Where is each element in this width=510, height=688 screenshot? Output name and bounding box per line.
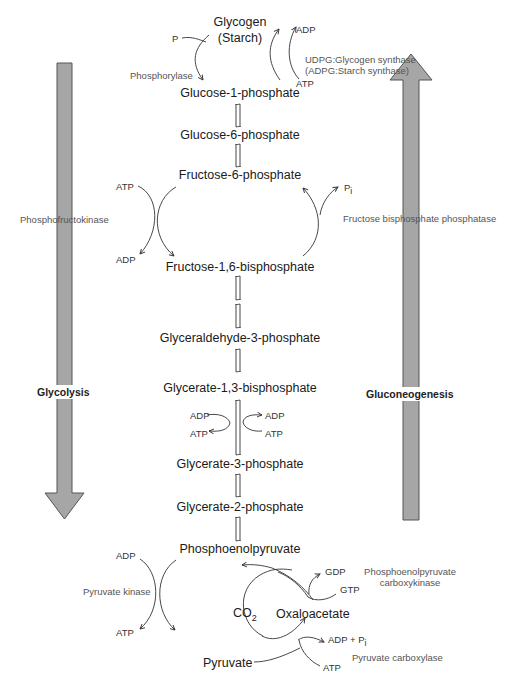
pathway-label-glycolysis: Glycolysis xyxy=(37,385,90,399)
cofactor-adp-pgk-right: ADP xyxy=(265,410,285,421)
metabolite-co2: CO2 xyxy=(233,606,257,623)
enzyme-pyruvate-kinase: Pyruvate kinase xyxy=(83,586,151,597)
cofactor-pi-fbpase: Pi xyxy=(344,182,352,196)
cofactor-adp-pyruvate-kinase: ADP xyxy=(116,550,136,561)
cofactor-atp-pgk-right: ATP xyxy=(265,428,283,439)
cofactor-p-phosphorylase: P xyxy=(172,33,178,44)
enzyme-phosphofructokinase: Phosphofructokinase xyxy=(20,214,109,225)
cofactor-gdp: GDP xyxy=(325,566,346,577)
metabolite-glyceraldehyde-3-phosphate: Glyceraldehyde-3-phosphate xyxy=(160,331,321,345)
metabolite-glycogen: Glycogen xyxy=(214,15,267,29)
metabolite-glycerate-1-3-bisphosphate: Glycerate-1,3-bisphosphate xyxy=(163,381,317,395)
glycolysis-arrow xyxy=(45,63,84,519)
cofactor-atp-synthase: ATP xyxy=(296,78,314,89)
metabolite-fructose-6-phosphate: Fructose-6-phosphate xyxy=(179,168,301,182)
enzyme-glycogen-synthase: UDPG:Glycogen synthase xyxy=(305,54,416,65)
pi-subscript: i xyxy=(350,186,352,196)
metabolite-glucose-6-phosphate: Glucose-6-phosphate xyxy=(180,128,300,142)
enzyme-pepck-line2: carboxykinase xyxy=(380,577,441,588)
co2-subscript: 2 xyxy=(252,613,257,623)
co2-text: CO xyxy=(233,606,252,620)
cofactor-atp-pyruvate-kinase: ATP xyxy=(116,627,134,638)
gluconeogenesis-arrow xyxy=(390,54,432,520)
cofactor-adp-pgk-left: ADP xyxy=(190,410,210,421)
enzyme-phosphorylase: Phosphorylase xyxy=(130,70,193,81)
cofactor-adp-pfk: ADP xyxy=(116,254,136,265)
metabolite-fructose-1-6-bisphosphate: Fructose-1,6-bisphosphate xyxy=(166,260,315,274)
cofactor-adp-pi-pc: ADP + Pi xyxy=(328,634,367,648)
cofactor-atp-pfk: ATP xyxy=(116,181,134,192)
metabolite-glycerate-3-phosphate: Glycerate-3-phosphate xyxy=(176,457,303,471)
cofactor-gtp: GTP xyxy=(340,584,360,595)
enzyme-pepck-line1: Phosphoenolpyruvate xyxy=(364,566,456,577)
enzyme-fructose-bisphosphate-phosphatase: Fructose bisphosphate phosphatase xyxy=(343,213,496,224)
cofactor-adp-synthase: ADP xyxy=(296,24,316,35)
metabolite-phosphoenolpyruvate: Phosphoenolpyruvate xyxy=(180,542,301,556)
cofactor-atp-pgk-left: ATP xyxy=(190,428,208,439)
adp-pi-text: ADP + P xyxy=(328,634,365,645)
metabolite-glucose-1-phosphate: Glucose-1-phosphate xyxy=(180,86,300,100)
metabolite-glycerate-2-phosphate: Glycerate-2-phosphate xyxy=(176,500,303,514)
pathway-label-gluconeogenesis: Gluconeogenesis xyxy=(366,387,454,401)
enzyme-pyruvate-carboxylase: Pyruvate carboxylase xyxy=(352,652,443,663)
adp-pi-subscript: i xyxy=(365,638,367,648)
metabolite-oxaloacetate: Oxaloacetate xyxy=(276,607,350,621)
enzyme-starch-synthase: (ADPG:Starch synthase) xyxy=(305,65,409,76)
metabolite-starch: (Starch) xyxy=(218,31,262,45)
metabolite-pyruvate: Pyruvate xyxy=(203,656,252,670)
cofactor-atp-pc: ATP xyxy=(323,662,341,673)
